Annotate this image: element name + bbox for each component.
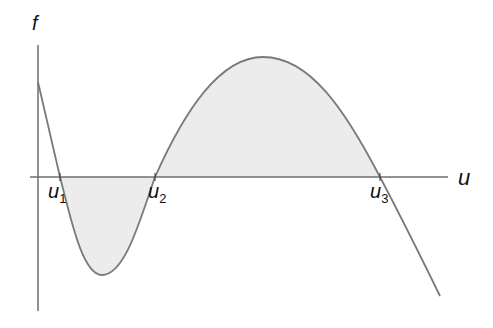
- f-axis-label: f: [32, 12, 40, 34]
- negative-lobe-fill: [60, 177, 155, 275]
- root-label-u2: u2: [148, 180, 166, 206]
- u-axis-label: u: [458, 165, 470, 190]
- root-label-u3: u3: [370, 180, 388, 206]
- function-diagram: f u u1 u2 u3: [0, 0, 493, 328]
- positive-lobe-fill: [155, 57, 380, 177]
